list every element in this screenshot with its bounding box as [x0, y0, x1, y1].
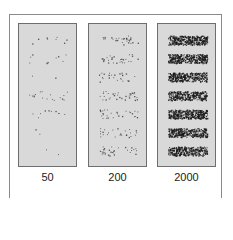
panel-label-200: 200 — [88, 171, 147, 183]
dot-scatter — [19, 24, 77, 167]
dot-scatter — [89, 24, 147, 167]
panel-label-2000: 2000 — [157, 171, 216, 183]
panel-2000 — [157, 23, 216, 167]
panel-label-50: 50 — [18, 171, 77, 183]
caption-cutoff — [25, 192, 215, 198]
dot-scatter — [158, 24, 216, 167]
panel-200 — [88, 23, 147, 167]
panel-50 — [18, 23, 77, 167]
